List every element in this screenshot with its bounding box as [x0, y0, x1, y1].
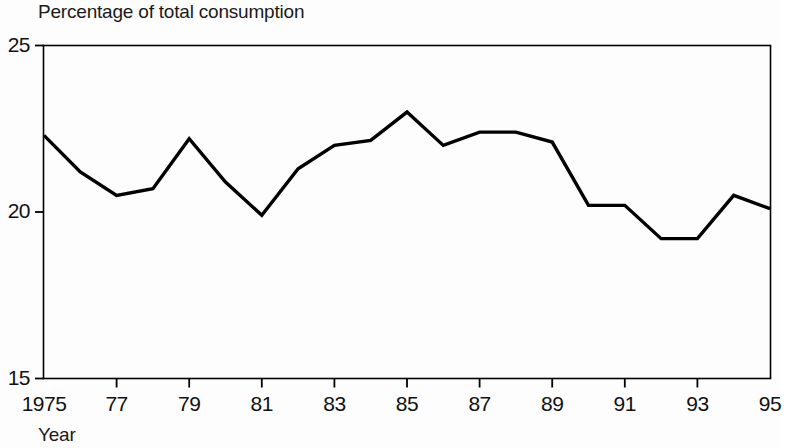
- y-axis-ticks: [35, 46, 44, 379]
- plot-frame: [44, 46, 771, 379]
- y-tick-label: 20: [0, 199, 30, 223]
- data-series-line: [44, 112, 770, 239]
- x-axis-label: Year: [38, 424, 76, 446]
- y-tick-label: 15: [0, 366, 30, 390]
- y-tick-label: 25: [0, 33, 30, 57]
- x-tick-label: 95: [710, 392, 786, 416]
- x-axis-ticks: [44, 379, 770, 388]
